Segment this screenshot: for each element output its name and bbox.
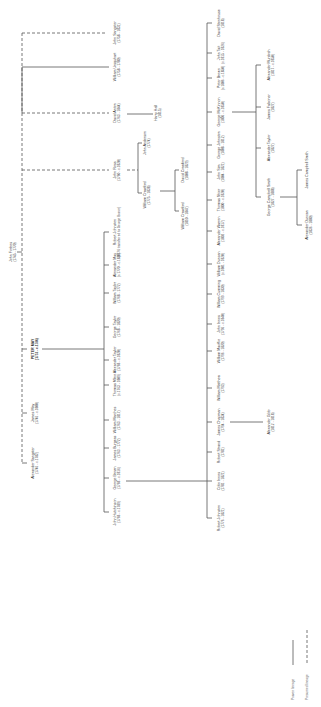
node-dates: (1802 - c.1817)	[221, 220, 225, 242]
node-george-mchinnon: George McKinnon(1806 - c.1850)	[217, 98, 225, 127]
node-dates: (1799 - 1830)	[221, 284, 225, 303]
node-dates: (1768 - c.1820)	[117, 349, 121, 371]
node-john-innes: John Innes(1796 - c.1840)	[217, 313, 225, 335]
node-dates: (1796 - 1820)	[221, 341, 225, 360]
node-dates: (1763 - 1844)	[117, 103, 121, 122]
node-dates: (1758 - 1831)	[117, 23, 121, 42]
node-peter-may: PETER MAY(1751 - c.1786)	[31, 338, 39, 360]
node-alexander-murdoch: Alexander Murdoch(1817 - c.1850)	[267, 49, 275, 80]
node-dates: (1817 - c.1850)	[271, 54, 275, 76]
node-dates: (1768 - 1820)	[117, 317, 121, 336]
node-dates: (1800 - c.1820)	[221, 189, 225, 211]
node-dates: (1815)	[158, 108, 162, 117]
node-dates: (1781)	[221, 447, 225, 456]
lineage-diagram: John Forbes(1745 - 1770)John Sangster(17…	[0, 0, 321, 707]
node-dates: (1836 - 1880)	[309, 215, 313, 234]
node-dates: (1810 - 1847)	[185, 206, 189, 225]
node-dates: (1812 - 1818)	[271, 412, 275, 431]
node-john-forbes: John Forbes(1745 - 1770)	[9, 242, 17, 262]
peter-may-pupil-ticks	[104, 232, 109, 512]
node-dates: (1808 - 1829)	[185, 160, 189, 179]
node-dates: (1751 - c.1786)	[35, 338, 39, 360]
node-john-tait: John Tait(c.1815 - 1826)	[217, 42, 225, 64]
node-labels: John Forbes(1745 - 1770)John Sangster(17…	[9, 9, 313, 531]
node-dates: (1763 - 1817)	[117, 410, 121, 429]
node-dates: (1776 transferred to George Brown)	[117, 207, 121, 258]
node-alexander-taylor-1: Alexander Taylor(1768 - c.1820)	[113, 346, 121, 374]
node-thomas-milne: Thomas Milne(c.1763 - 1809)	[113, 374, 121, 397]
node-dates: (1827 - 1888)	[271, 187, 275, 206]
node-dates: (1768 - 1772)	[117, 283, 121, 302]
george-brown-pupil-ticks	[207, 23, 212, 518]
node-dates: (1806 - c.1850)	[221, 101, 225, 123]
node-dates: (c.1801 - 1820)	[221, 253, 225, 275]
node-william-marches: William Marches(1763 - 1817)	[113, 407, 121, 434]
node-dates: (1818)	[221, 18, 225, 27]
node-peter-brown: Peter Brown(c.1806 - c.1850)	[217, 66, 225, 90]
node-dates: (1745 - 1770)	[13, 242, 17, 261]
node-dates: (1746 - c.1800)	[35, 402, 39, 424]
node-robert-johnston-1: Robert Johnston(1776 transferred to Geor…	[113, 207, 121, 258]
node-dates: (1760 - c.1820)	[117, 159, 121, 181]
node-alexander-warren: Alexander Warren(1802 - c.1817)	[217, 217, 225, 246]
node-john-ross: John Ross(1760 - c.1820)	[113, 159, 121, 181]
node-alexander-taylor-2: Alexander Taylor(1827)	[267, 134, 275, 162]
node-william-machie: William MacKie(1796 - 1820)	[217, 339, 225, 364]
node-dates: (1793)	[221, 383, 225, 392]
node-james-burgess: James Burgess(1763 - 1772)	[113, 435, 121, 460]
node-dates: (1827)	[271, 143, 275, 152]
node-alexander-duncan: Alexander Duncan(1836 - 1880)	[305, 210, 313, 240]
node-george-johnston: George Johnston(1808 - 1812)	[217, 131, 225, 159]
node-george-brown: George Brown(1768 - c.1816)	[113, 466, 121, 489]
node-david-crawford: David Crawford(1808 - 1829)	[181, 158, 189, 183]
node-dates: (1758 - 1780)	[117, 57, 121, 76]
node-name: James Campbell Smith	[305, 152, 309, 189]
node-dates: (1774)	[147, 138, 151, 147]
node-george-campbell-smith: George Campbell Smith(1827 - 1888)	[267, 178, 275, 216]
node-william-crawford-sr: William Crawford(1775 - 1838)	[143, 181, 151, 208]
node-david-anton: David Anton(1763 - 1844)	[113, 103, 121, 122]
node-dates: (1808 - 1812)	[221, 135, 225, 154]
node-dates: (1781 - 1821)	[221, 471, 225, 490]
legend-dashed-label: Presumed lineage	[305, 674, 309, 700]
node-thomas-shier: Thomas Shier(1800 - c.1820)	[217, 188, 225, 211]
node-james-chapman: James Chapman(1794 - 1834)	[217, 408, 225, 435]
connectors	[17, 23, 307, 665]
node-william-crawford-jr: William Crawford(1810 - 1847)	[181, 202, 189, 229]
node-colin-innes: Colin Innes(1781 - 1821)	[217, 471, 225, 490]
node-john-hutchinson: John Hutchinson(1768 - c.1789)	[113, 499, 121, 526]
node-alexander-gibb: Alexander Gibb(1812 - 1818)	[267, 410, 275, 435]
node-william-ursquhart: William Ursquhart(1758 - 1780)	[113, 53, 121, 81]
node-william-taylor: William Taylor(1768 - 1772)	[113, 281, 121, 304]
legend: Proven lineage Presumed lineage	[291, 674, 309, 700]
node-robert-strand: Robert Strand(1781)	[217, 441, 225, 463]
node-alexander-may: Alexander May(c.1770 - c.1820)	[113, 253, 121, 277]
node-dates: (c.1815 - 1826)	[221, 42, 225, 64]
node-john-anderson: John Anderson(1774)	[143, 131, 151, 155]
node-james-may: James May(1746 - c.1800)	[31, 402, 39, 424]
node-dates: (1827)	[271, 102, 275, 111]
node-dates: (c.1770 - c.1820)	[117, 253, 121, 277]
node-dates: (1768 - c.1789)	[117, 501, 121, 523]
node-john-sim: John Sim(1804 - 1821)	[217, 162, 225, 181]
node-dates: (1775 - 1838)	[147, 185, 151, 204]
node-dates: (1804 - 1821)	[221, 162, 225, 181]
node-john-sangster: John Sangster(1758 - 1831)	[113, 21, 121, 45]
node-robert-johnston-2: Robert Johnston(1776 - 1821)	[217, 505, 225, 531]
node-dates: (1746 - c.1782)	[35, 452, 39, 474]
node-william-duncan: William Duncan(c.1801 - 1820)	[217, 252, 225, 277]
node-dates: (1796 - c.1840)	[221, 313, 225, 335]
node-david-stenhouse: David Stenhouse(1818)	[217, 9, 225, 36]
node-harry-hall: Harry Hall(1815)	[154, 105, 162, 121]
node-dates: (1768 - c.1816)	[117, 467, 121, 489]
node-james-falconer: James Falconer(1827)	[267, 93, 275, 119]
node-james-campbell-smith: James Campbell Smith	[305, 152, 309, 189]
node-dates: (1763 - 1772)	[117, 438, 121, 457]
node-dates: (c.1806 - c.1850)	[221, 66, 225, 90]
node-william-cumming: William Cumming(1799 - 1830)	[217, 280, 225, 308]
node-alexander-sangster: Alexander Sangster(1746 - c.1782)	[31, 446, 39, 478]
node-george-taylor: George Taylor(1768 - 1820)	[113, 315, 121, 338]
legend-solid-label: Proven lineage	[291, 679, 295, 700]
node-dates: (1794 - 1834)	[221, 412, 225, 431]
node-william-matthew: William Matthew(1793)	[217, 375, 225, 402]
